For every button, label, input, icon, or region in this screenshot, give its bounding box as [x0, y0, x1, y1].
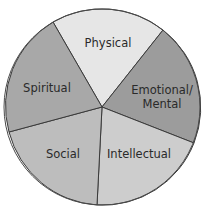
wellness-wheel: Physical Emotional/ Mental Intellectual … — [0, 0, 205, 219]
label-physical: Physical — [85, 36, 132, 50]
label-emotional-line1: Emotional/ — [131, 83, 193, 97]
label-social: Social — [46, 147, 80, 161]
label-spiritual: Spiritual — [23, 81, 71, 95]
label-intellectual: Intellectual — [107, 147, 171, 161]
label-emotional-line2: Mental — [142, 97, 181, 111]
